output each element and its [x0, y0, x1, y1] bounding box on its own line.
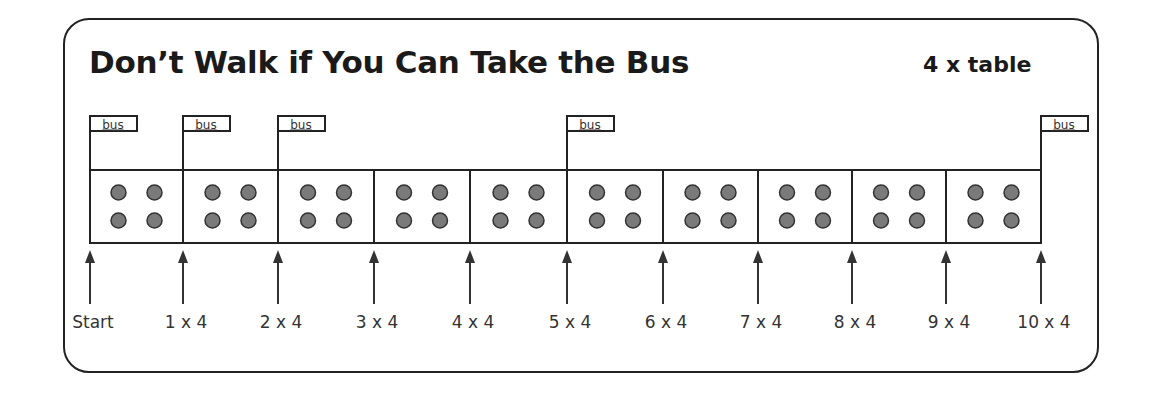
bus-sign-label: bus: [579, 118, 600, 132]
bus-stop-flag: bus: [90, 116, 137, 170]
dice-box: [470, 170, 567, 243]
multiple-label: 3 x 4: [356, 312, 399, 332]
dot-icon: [1004, 213, 1019, 228]
up-arrow-icon: [369, 250, 379, 304]
dot-icon: [910, 185, 925, 200]
box-outline: [374, 170, 470, 243]
dice-box: [852, 170, 946, 243]
dot-icon: [397, 185, 412, 200]
box-outline: [567, 170, 663, 243]
multiple-label: 9 x 4: [928, 312, 971, 332]
dice-box: [567, 170, 663, 243]
box-outline: [278, 170, 374, 243]
bus-sign-label: bus: [1053, 118, 1074, 132]
up-arrow-icon: [178, 250, 188, 304]
dot-icon: [626, 185, 641, 200]
dice-boxes: [90, 170, 1041, 243]
number-line-diagram: busbusbusbusbus: [0, 0, 1155, 394]
multiple-label: 7 x 4: [740, 312, 783, 332]
dice-box: [758, 170, 852, 243]
dot-icon: [780, 213, 795, 228]
bus-stop-flag: bus: [1041, 116, 1088, 170]
dot-icon: [301, 185, 316, 200]
dot-icon: [529, 185, 544, 200]
dot-icon: [433, 213, 448, 228]
dice-box: [278, 170, 374, 243]
dot-icon: [147, 185, 162, 200]
up-arrow-icon: [465, 250, 475, 304]
up-arrow-icon: [562, 250, 572, 304]
box-outline: [663, 170, 758, 243]
up-arrow-icon: [658, 250, 668, 304]
box-outline: [183, 170, 278, 243]
dot-icon: [205, 213, 220, 228]
dot-icon: [147, 213, 162, 228]
dot-icon: [816, 185, 831, 200]
box-outline: [90, 170, 183, 243]
dot-icon: [721, 185, 736, 200]
multiple-label: 2 x 4: [260, 312, 303, 332]
dice-box: [946, 170, 1041, 243]
up-arrow-icon: [941, 250, 951, 304]
dot-icon: [910, 213, 925, 228]
dot-icon: [874, 213, 889, 228]
dot-icon: [111, 185, 126, 200]
dot-icon: [301, 213, 316, 228]
multiple-label: 1 x 4: [165, 312, 208, 332]
multiple-label: 5 x 4: [549, 312, 592, 332]
dot-icon: [626, 213, 641, 228]
dot-icon: [337, 213, 352, 228]
dot-icon: [685, 185, 700, 200]
up-arrow-icon: [85, 250, 95, 304]
dot-icon: [493, 185, 508, 200]
dot-icon: [337, 185, 352, 200]
bus-stop-flags: busbusbusbusbus: [90, 116, 1088, 170]
box-outline: [758, 170, 852, 243]
box-outline: [852, 170, 946, 243]
up-arrow-icon: [1036, 250, 1046, 304]
dot-icon: [590, 213, 605, 228]
box-outline: [470, 170, 567, 243]
start-label: Start: [72, 312, 114, 332]
bus-stop-flag: bus: [278, 116, 325, 170]
multiple-label: 10 x 4: [1017, 312, 1070, 332]
dot-icon: [493, 213, 508, 228]
dot-icon: [816, 213, 831, 228]
bus-sign-label: bus: [195, 118, 216, 132]
dice-box: [183, 170, 278, 243]
dice-box: [374, 170, 470, 243]
dot-icon: [721, 213, 736, 228]
dice-box: [663, 170, 758, 243]
bus-stop-flag: bus: [183, 116, 230, 170]
up-arrow-icon: [847, 250, 857, 304]
box-outline: [946, 170, 1041, 243]
dot-icon: [590, 185, 605, 200]
dot-icon: [529, 213, 544, 228]
dot-icon: [780, 185, 795, 200]
bus-stop-flag: bus: [567, 116, 614, 170]
dot-icon: [968, 185, 983, 200]
dot-icon: [1004, 185, 1019, 200]
multiple-label: 4 x 4: [452, 312, 495, 332]
dot-icon: [874, 185, 889, 200]
dot-icon: [397, 213, 412, 228]
bus-sign-label: bus: [102, 118, 123, 132]
multiple-label: 6 x 4: [645, 312, 688, 332]
dot-icon: [241, 185, 256, 200]
up-arrow-icon: [753, 250, 763, 304]
bus-sign-label: bus: [290, 118, 311, 132]
dot-icon: [685, 213, 700, 228]
dice-box: [90, 170, 183, 243]
dot-icon: [241, 213, 256, 228]
dot-icon: [111, 213, 126, 228]
up-arrow-icon: [273, 250, 283, 304]
dot-icon: [968, 213, 983, 228]
jump-arrows: [85, 250, 1046, 304]
multiple-label: 8 x 4: [834, 312, 877, 332]
dot-icon: [433, 185, 448, 200]
dot-icon: [205, 185, 220, 200]
